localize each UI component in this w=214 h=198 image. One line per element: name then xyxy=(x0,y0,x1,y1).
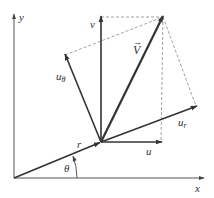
construction-lines xyxy=(65,17,196,142)
u-r-label: ur xyxy=(178,116,188,130)
r-vector xyxy=(14,143,100,179)
r-label: r xyxy=(77,138,82,150)
x-axis-label: x xyxy=(194,182,200,194)
v-label: v xyxy=(90,18,95,30)
y-axis-label: y xyxy=(18,11,24,23)
V-vector xyxy=(101,16,163,142)
u-theta-subscript: θ xyxy=(62,75,66,84)
theta-arc xyxy=(73,156,77,178)
u-label: u xyxy=(146,145,152,157)
theta-label: θ xyxy=(64,162,70,174)
V-arrow-accent: → xyxy=(133,37,142,47)
u-theta-vector xyxy=(65,54,101,142)
velocity-diagram: y x r θ v V → u ur uθ xyxy=(0,0,214,198)
u-r-subscript: r xyxy=(184,121,188,130)
u-theta-label: uθ xyxy=(56,70,66,84)
